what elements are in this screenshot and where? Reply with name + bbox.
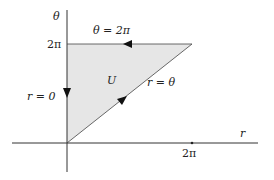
edge-diagonal-label: r = θ (147, 77, 175, 88)
edge-left-label: r = 0 (27, 91, 55, 102)
region-label: U (107, 75, 116, 86)
r-tick-label: 2π (182, 148, 196, 159)
edge-top-label: θ = 2π (93, 25, 130, 36)
theta-axis-label: θ (53, 11, 60, 22)
theta-tick-label: 2π (47, 39, 61, 50)
r-axis-label: r (240, 128, 245, 139)
tick-2pi-r (191, 142, 194, 145)
